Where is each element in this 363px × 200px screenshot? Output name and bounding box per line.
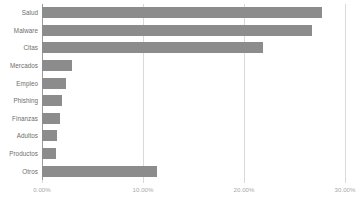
category-label-row: Empleo [0, 74, 38, 92]
bar-series [42, 4, 345, 180]
category-label: Otros [22, 168, 38, 175]
x-axis-ticks: 0.00%10.00%20.00%30.00% [42, 180, 345, 200]
tick-mark [244, 180, 245, 183]
category-label: Productos [9, 150, 38, 157]
bar [42, 7, 322, 18]
category-label-row: Mercados [0, 57, 38, 75]
tick-label: 20.00% [234, 186, 255, 193]
bar-row [42, 110, 345, 128]
bar-row [42, 22, 345, 40]
bar [42, 25, 312, 36]
tick-label: 30.00% [335, 186, 356, 193]
category-label: Citas [23, 44, 38, 51]
category-label-row: Finanzas [0, 110, 38, 128]
category-axis-labels: SaludMalwareCitasMercadosEmpleoPhishingF… [0, 4, 38, 180]
tick-label: 10.00% [133, 186, 154, 193]
tick-mark [143, 180, 144, 183]
category-label-row: Salud [0, 4, 38, 22]
bar-row [42, 4, 345, 22]
bar-row [42, 74, 345, 92]
category-label-row: Phishing [0, 92, 38, 110]
bar-row [42, 39, 345, 57]
category-label: Salud [22, 9, 38, 16]
category-label: Adultos [17, 132, 38, 139]
bar-chart: SaludMalwareCitasMercadosEmpleoPhishingF… [0, 0, 363, 200]
category-label-row: Adultos [0, 127, 38, 145]
bar [42, 60, 72, 71]
category-label-row: Citas [0, 39, 38, 57]
category-label: Mercados [10, 62, 38, 69]
category-label-row: Malware [0, 22, 38, 40]
bar-row [42, 57, 345, 75]
tick-label: 0.00% [33, 186, 51, 193]
bar [42, 148, 56, 159]
plot-area [42, 4, 345, 180]
bar [42, 95, 62, 106]
category-label-row: Productos [0, 145, 38, 163]
gridline [345, 4, 346, 180]
bar [42, 42, 263, 53]
bar [42, 130, 57, 141]
category-label: Malware [14, 27, 38, 34]
bar [42, 78, 66, 89]
tick-mark [345, 180, 346, 183]
bar [42, 113, 60, 124]
bar-row [42, 92, 345, 110]
bar-row [42, 162, 345, 180]
bar-row [42, 145, 345, 163]
bar-row [42, 127, 345, 145]
bar [42, 166, 157, 177]
category-label: Empleo [16, 80, 38, 87]
category-label-row: Otros [0, 162, 38, 180]
category-label: Phishing [13, 97, 38, 104]
category-label: Finanzas [12, 115, 38, 122]
tick-mark [42, 180, 43, 183]
